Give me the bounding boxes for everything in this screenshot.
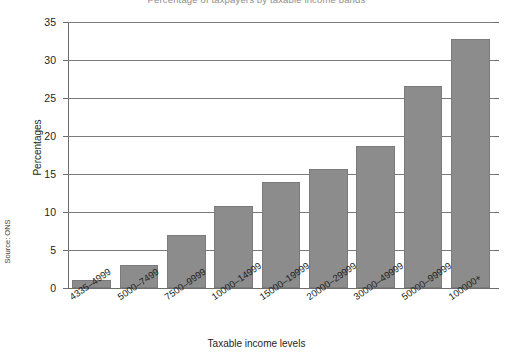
chart-title: Percentage of taxpayers by taxable incom… — [0, 0, 513, 6]
y-tick-mark-right — [494, 22, 499, 23]
y-tick-mark-right — [494, 250, 499, 251]
y-tick-mark — [63, 22, 68, 23]
plot-area — [68, 22, 494, 288]
gridline — [68, 22, 494, 23]
y-tick-mark-right — [494, 212, 499, 213]
gridline — [68, 60, 494, 61]
y-tick-label: 35 — [16, 17, 56, 28]
y-tick-mark — [63, 212, 68, 213]
y-tick-label: 30 — [16, 55, 56, 66]
y-tick-label: 10 — [16, 207, 56, 218]
y-tick-mark-right — [494, 60, 499, 61]
y-tick-mark — [63, 174, 68, 175]
bar-chart-figure: Percentage of taxpayers by taxable incom… — [0, 0, 513, 358]
y-tick-mark — [63, 288, 68, 289]
y-tick-mark — [63, 60, 68, 61]
y-tick-mark — [63, 136, 68, 137]
y-tick-mark-right — [494, 98, 499, 99]
bar — [404, 86, 443, 288]
y-tick-label: 20 — [16, 131, 56, 142]
y-tick-mark — [63, 98, 68, 99]
source-note: Source: ONS — [3, 211, 12, 273]
y-tick-mark-right — [494, 136, 499, 137]
y-tick-mark-right — [494, 174, 499, 175]
y-tick-mark-right — [494, 288, 499, 289]
y-tick-label: 0 — [16, 283, 56, 294]
y-tick-mark — [63, 250, 68, 251]
x-axis-title: Taxable income levels — [0, 338, 513, 349]
y-axis-line — [68, 22, 69, 289]
bar — [451, 39, 490, 288]
y-tick-label: 5 — [16, 245, 56, 256]
y-tick-label: 25 — [16, 93, 56, 104]
y-tick-label: 15 — [16, 169, 56, 180]
